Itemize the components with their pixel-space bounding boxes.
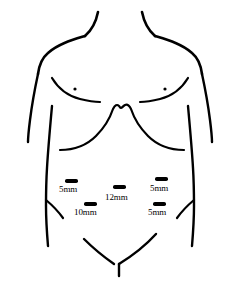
hip-right-line <box>177 200 194 218</box>
port-placement-diagram: 5mm 10mm 12mm 5mm 5mm <box>0 0 240 294</box>
flank-right-outline <box>188 106 194 246</box>
nipple-right-dot <box>163 87 166 90</box>
costal-margin-line <box>60 105 184 150</box>
neck-right-line <box>142 12 155 36</box>
shoulder-right-line <box>155 36 202 74</box>
port-mark-right-lower <box>153 202 166 206</box>
port-label-umbilical: 12mm <box>105 192 128 202</box>
groin-left-line <box>84 239 114 264</box>
port-mark-left-lateral <box>65 179 78 183</box>
arm-left-outline <box>28 74 38 142</box>
port-label-right-lower: 5mm <box>148 207 166 217</box>
port-label-left-lateral: 5mm <box>59 184 77 194</box>
port-mark-right-upper <box>155 177 168 181</box>
nipple-left-dot <box>73 87 76 90</box>
flank-left-outline <box>46 106 52 246</box>
hip-left-line <box>46 200 63 218</box>
port-label-right-upper: 5mm <box>150 183 168 193</box>
torso-illustration <box>0 0 240 294</box>
arm-right-outline <box>202 74 212 142</box>
shoulder-left-line <box>38 36 85 74</box>
port-mark-umbilical <box>113 185 126 189</box>
neck-left-line <box>85 12 98 36</box>
port-label-left-lower: 10mm <box>74 207 97 217</box>
port-mark-left-lower <box>84 202 97 206</box>
groin-right-line <box>119 234 156 264</box>
